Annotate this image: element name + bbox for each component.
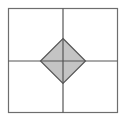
quadrant-diamond-diagram [0,0,126,121]
